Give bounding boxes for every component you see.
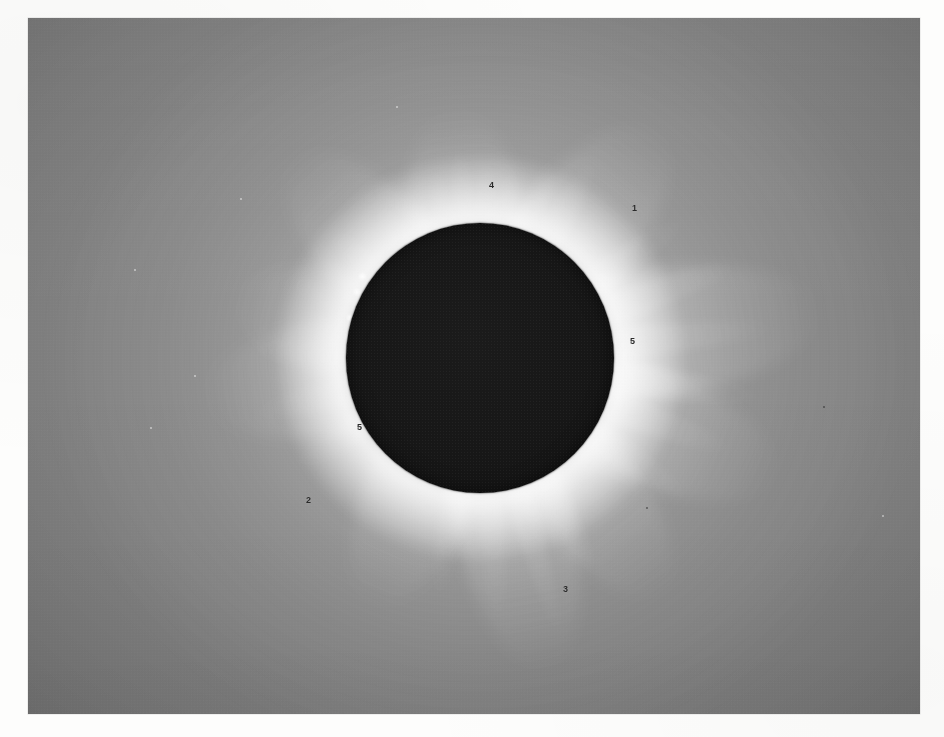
annotation-label-north-polar-rays: 4 [489, 181, 494, 190]
annotation-label-south-west-streamer: 2 [306, 496, 311, 505]
lunar-disk [346, 223, 614, 493]
eclipse-photograph: 123455 [28, 18, 920, 714]
annotation-label-south-polar-streamer: 3 [563, 585, 568, 594]
annotation-label-east-equatorial-streamer: 5 [630, 337, 635, 346]
scan-sheet: 123455 [0, 0, 944, 737]
annotation-label-north-east-streamer: 1 [632, 204, 637, 213]
annotation-label-west-equatorial-streamer: 5 [357, 423, 362, 432]
